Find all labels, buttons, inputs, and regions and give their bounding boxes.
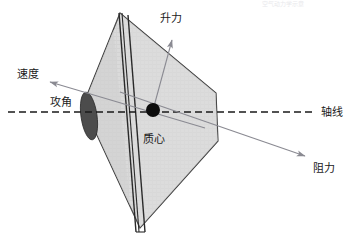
label-drag: 阻力 [313,162,335,175]
canopy-shape [83,13,218,228]
watermark-text: 空气动力学示意 [262,0,304,8]
aerodynamics-diagram: 空气动力学示意 速度 攻 [0,0,355,242]
label-angle-of-attack: 攻角 [50,95,72,109]
label-center-of-mass: 质心 [143,133,165,146]
label-lift: 升力 [160,12,182,25]
center-of-mass-dot [146,103,160,117]
label-velocity: 速度 [17,67,39,81]
label-axis-line: 轴线 [321,105,343,119]
diagram-canvas: 空气动力学示意 速度 攻 [0,0,355,242]
canopy-shading [83,13,218,228]
